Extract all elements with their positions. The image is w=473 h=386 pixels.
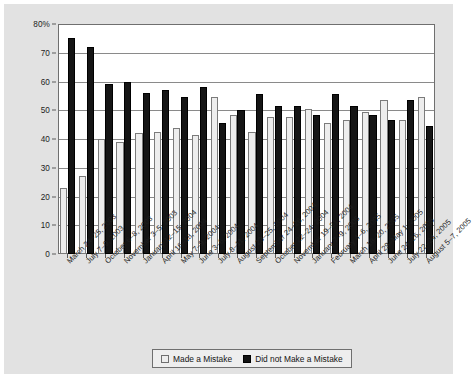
y-axis-tick-mark <box>52 196 56 197</box>
y-axis-tick-mark <box>52 110 56 111</box>
bar-made-a-mistake <box>60 188 67 254</box>
y-axis-tick-label: 40 <box>41 135 50 144</box>
legend-label: Did not Make a Mistake <box>255 354 343 364</box>
y-axis-tick-label: 20 <box>41 192 50 201</box>
legend-swatch-dark <box>243 355 251 363</box>
bar-group <box>58 24 77 254</box>
x-axis-labels: March 24–25, 2003July 7–9, 2003October 6… <box>4 254 453 349</box>
bar-group <box>209 24 228 254</box>
y-axis-tick-mark <box>52 52 56 53</box>
y-axis-tick-label: 30 <box>41 163 50 172</box>
y-axis-tick-mark <box>52 225 56 226</box>
bar-did-not-make-a-mistake <box>87 47 94 254</box>
legend-item: Did not Make a Mistake <box>243 354 343 364</box>
bar-did-not-make-a-mistake <box>68 38 75 254</box>
legend-label: Made a Mistake <box>173 354 232 364</box>
chart-panel: 01020304050607080% March 24–25, 2003July… <box>4 4 453 374</box>
y-axis-tick-label: 80% <box>33 20 50 29</box>
bar-group <box>228 24 247 254</box>
y-axis-tick-label: 50 <box>41 106 50 115</box>
y-axis-tick-mark <box>52 24 56 25</box>
y-axis-tick-mark <box>52 167 56 168</box>
chart-legend: Made a MistakeDid not Make a Mistake <box>152 349 352 368</box>
bar-group <box>77 24 96 254</box>
y-axis-tick-label: 10 <box>41 221 50 230</box>
bar-did-not-make-a-mistake <box>124 82 131 255</box>
y-axis: 01020304050607080% <box>4 24 56 254</box>
y-axis-tick-label: 60 <box>41 77 50 86</box>
legend-swatch-light <box>161 355 169 363</box>
y-axis-tick-mark <box>52 139 56 140</box>
y-axis-tick-mark <box>52 81 56 82</box>
legend-item: Made a Mistake <box>161 354 232 364</box>
y-axis-tick-label: 70 <box>41 48 50 57</box>
bar-group <box>115 24 134 254</box>
bar-group <box>247 24 266 254</box>
